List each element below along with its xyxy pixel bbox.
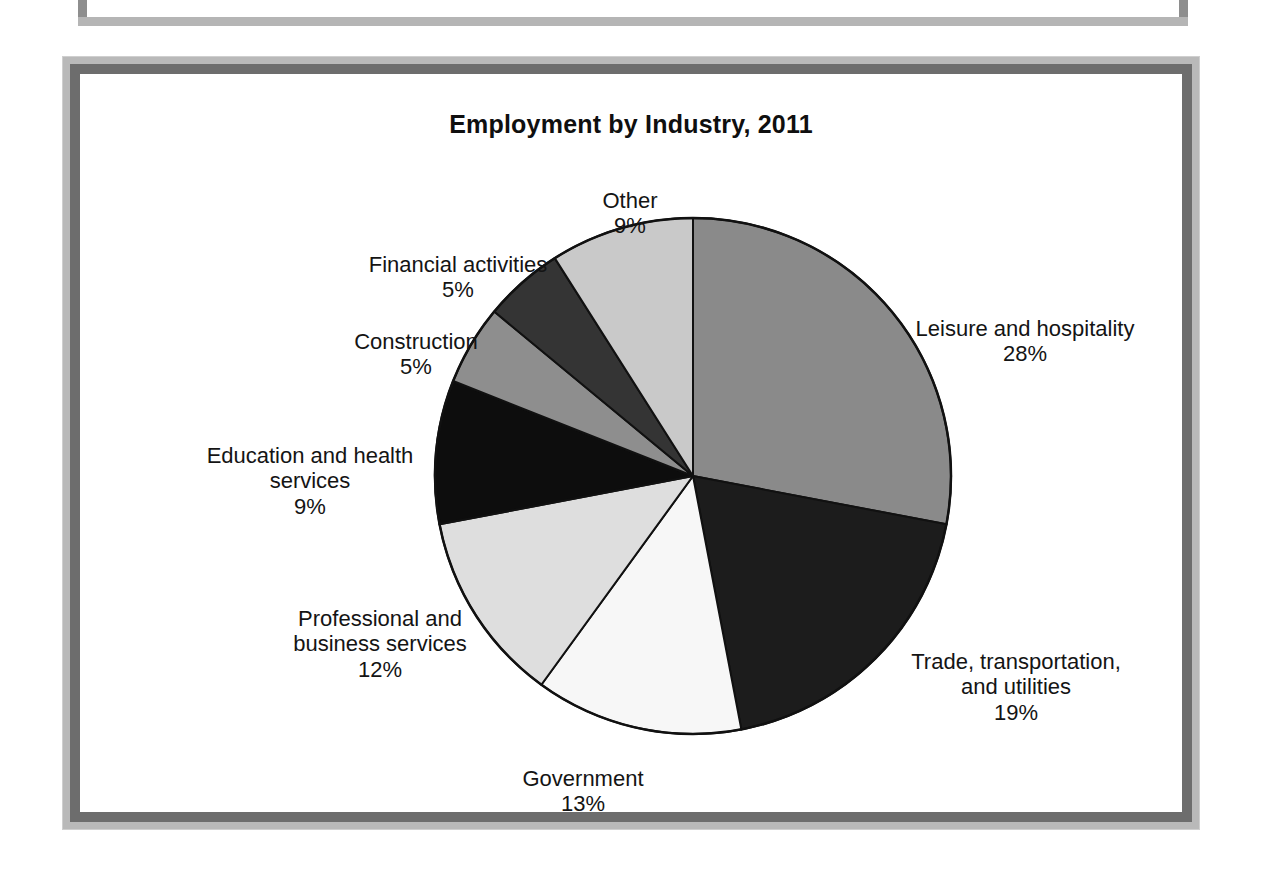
slice-label-trade-transportation-and-utilities-name: Trade, transportation, and utilities [911,649,1121,700]
slice-label-education-and-health-services-name: Education and health services [207,443,414,494]
slice-label-leisure-and-hospitality-name: Leisure and hospitality [916,316,1135,341]
slice-label-trade-transportation-and-utilities: Trade, transportation, and utilities 19% [866,623,1166,751]
slice-label-professional-and-business-services: Professional and business services 12% [230,580,530,708]
slice-label-government: Government 13% [438,740,728,812]
slice-label-leisure-and-hospitality-value: 28% [870,341,1180,367]
slice-label-trade-transportation-and-utilities-value: 19% [866,700,1166,726]
slice-label-construction: Construction 5% [292,303,540,405]
slice-label-government-value: 13% [438,791,728,812]
slice-label-professional-and-business-services-name: Professional and business services [293,606,467,657]
previous-figure-frame-remnant [78,0,1188,26]
slice-label-education-and-health-services-value: 9% [160,494,460,520]
slice-label-other-name: Other [602,188,657,213]
slice-label-government-name: Government [522,766,643,791]
chart-frame: Employment by Industry, 2011 Other 9% Fi… [70,64,1192,822]
slice-label-professional-and-business-services-value: 12% [230,657,530,683]
slice-label-construction-value: 5% [292,354,540,380]
slice-label-leisure-and-hospitality: Leisure and hospitality 28% [870,290,1180,392]
slice-label-financial-activities-value: 5% [308,277,608,303]
slice-label-financial-activities-name: Financial activities [369,252,548,277]
slice-label-education-and-health-services: Education and health services 9% [160,417,460,545]
chart-canvas: Employment by Industry, 2011 Other 9% Fi… [80,74,1182,812]
slice-label-construction-name: Construction [354,329,478,354]
